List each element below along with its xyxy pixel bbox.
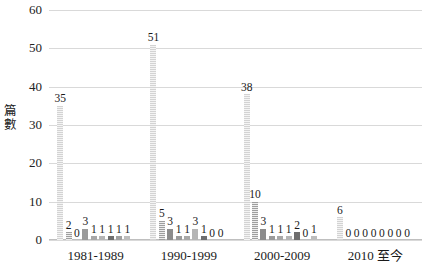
bar-value-label: 2 [66, 220, 72, 232]
bar-slot-2-1: 10 [251, 10, 259, 240]
bar-slot-2-5: 1 [284, 10, 292, 240]
bar-slot-3-8: 0 [403, 10, 411, 240]
bar [150, 45, 156, 241]
bar-value-label: 0 [74, 228, 80, 240]
x-axis-category-labels: 1981-19891990-19992000-20092010 至今 [49, 248, 422, 272]
bar-slot-1-8: 0 [216, 10, 224, 240]
bar [159, 221, 165, 240]
bar [167, 229, 173, 241]
bar-slot-2-7: 0 [301, 10, 309, 240]
bar-slot-2-0: 38 [243, 10, 251, 240]
y-tick-30: 30 [0, 118, 42, 131]
bar-value-label: 1 [286, 224, 292, 236]
bar-value-label: 1 [311, 224, 317, 236]
bar-slot-3-4: 0 [369, 10, 377, 240]
bar-slot-3-7: 0 [394, 10, 402, 240]
bar [192, 229, 198, 241]
bar-value-label: 3 [82, 216, 88, 228]
bar-groups: 3520311111515311310038103111201600000000 [49, 10, 422, 240]
bar [108, 236, 114, 240]
bar-value-label: 1 [176, 224, 182, 236]
bar-value-label: 1 [116, 224, 122, 236]
bar-slot-0-1: 2 [64, 10, 72, 240]
bar-value-label: 0 [371, 228, 377, 240]
bar-slot-1-2: 3 [166, 10, 174, 240]
bar [91, 236, 97, 240]
bar-slot-0-7: 1 [115, 10, 123, 240]
bar-slot-1-3: 1 [174, 10, 182, 240]
bar [286, 236, 292, 240]
bar-group-1: 5153113100 [142, 10, 235, 240]
bar-slot-2-4: 1 [276, 10, 284, 240]
bar-slot-3-2: 0 [353, 10, 361, 240]
top-clipped-artifact [0, 0, 430, 3]
y-tick-20: 20 [0, 156, 42, 169]
bar-value-label: 1 [269, 224, 275, 236]
y-tick-0: 0 [0, 233, 42, 246]
bar-group-2: 38103111201 [236, 10, 329, 240]
bar-slot-3-1: 0 [344, 10, 352, 240]
bar-value-label: 1 [277, 224, 283, 236]
x-category-1: 1990-1999 [142, 248, 235, 264]
y-tick-40: 40 [0, 80, 42, 93]
bar-slot-0-8: 1 [123, 10, 131, 240]
bar [311, 236, 317, 240]
bar [244, 94, 250, 240]
bar-value-label: 0 [218, 228, 224, 240]
bar [260, 229, 266, 241]
bar-value-label: 3 [193, 216, 199, 228]
bar [66, 232, 72, 240]
bar [57, 106, 63, 240]
bar-slot-2-8: 1 [310, 10, 318, 240]
x-category-0: 1981-1989 [49, 248, 142, 264]
bar-slot-2-6: 2 [293, 10, 301, 240]
bar-value-label: 0 [396, 228, 402, 240]
bar-value-label: 3 [261, 216, 267, 228]
bar-slot-3-0: 6 [336, 10, 344, 240]
bar-slot-1-0: 51 [149, 10, 157, 240]
bar [116, 236, 122, 240]
bar-group-3: 600000000 [329, 10, 422, 240]
x-category-2: 2000-2009 [236, 248, 329, 264]
bar-value-label: 5 [159, 208, 165, 220]
y-tick-10: 10 [0, 195, 42, 208]
bar-value-label: 0 [303, 228, 309, 240]
bar-value-label: 0 [379, 228, 385, 240]
bar-slot-1-6: 1 [200, 10, 208, 240]
plot-area: 3520311111515311310038103111201600000000 [49, 10, 422, 240]
bar [337, 217, 343, 240]
bar-slot-0-3: 3 [81, 10, 89, 240]
bar-slot-1-5: 3 [191, 10, 199, 240]
bar-value-label: 1 [91, 224, 97, 236]
bar-value-label: 1 [108, 224, 114, 236]
bar [269, 236, 275, 240]
bar-value-label: 1 [201, 224, 207, 236]
bar-value-label: 0 [209, 228, 215, 240]
bar [184, 236, 190, 240]
bar [176, 236, 182, 240]
bar-slot-2-3: 1 [268, 10, 276, 240]
bar-slot-0-6: 1 [106, 10, 114, 240]
bar [277, 236, 283, 240]
bar-value-label: 0 [354, 228, 360, 240]
bar-chart: 篇數 0102030405060 35203111115153113100381… [0, 0, 430, 280]
bar-value-label: 1 [184, 224, 190, 236]
bar [124, 236, 130, 240]
x-category-3: 2010 至今 [329, 248, 422, 264]
bar-group-0: 3520311111 [49, 10, 142, 240]
y-tick-60: 60 [0, 3, 42, 16]
bar-value-label: 0 [345, 228, 351, 240]
bar-value-label: 1 [99, 224, 105, 236]
bar-value-label: 0 [362, 228, 368, 240]
bar-slot-1-4: 1 [183, 10, 191, 240]
bar-slot-0-2: 0 [73, 10, 81, 240]
bar-slot-3-5: 0 [378, 10, 386, 240]
bar [294, 232, 300, 240]
bar-value-label: 6 [337, 205, 343, 217]
bar-value-label: 0 [387, 228, 393, 240]
bar-slot-1-7: 0 [208, 10, 216, 240]
bar-value-label: 1 [124, 224, 130, 236]
gridline-0 [49, 240, 422, 241]
bar [252, 202, 258, 240]
bar-slot-3-6: 0 [386, 10, 394, 240]
